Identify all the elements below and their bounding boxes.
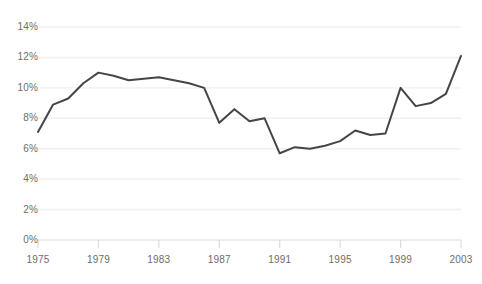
x-tick-label: 1987 bbox=[197, 255, 241, 265]
x-tick-label: 1999 bbox=[379, 255, 423, 265]
x-tick-label: 1995 bbox=[318, 255, 362, 265]
x-tick-label: 2003 bbox=[439, 255, 482, 265]
y-tick-label: 8% bbox=[4, 113, 38, 123]
line-chart: 14%12%10%8%6%4%2%0% 19751979198319871991… bbox=[0, 0, 482, 284]
x-tick-label: 1991 bbox=[258, 255, 302, 265]
y-tick-label: 2% bbox=[4, 205, 38, 215]
y-tick-label: 0% bbox=[4, 235, 38, 245]
y-tick-label: 6% bbox=[4, 144, 38, 154]
chart-plot-area bbox=[0, 0, 482, 284]
x-tick-label: 1983 bbox=[137, 255, 181, 265]
x-tick-label: 1979 bbox=[76, 255, 120, 265]
y-tick-label: 10% bbox=[4, 83, 38, 93]
x-tick-marks bbox=[38, 240, 461, 248]
y-tick-label: 4% bbox=[4, 174, 38, 184]
data-series-line bbox=[38, 56, 461, 153]
y-axis-tick-labels: 14%12%10%8%6%4%2%0% bbox=[0, 0, 38, 284]
gridlines bbox=[38, 27, 461, 210]
x-tick-label: 1975 bbox=[16, 255, 60, 265]
y-tick-label: 12% bbox=[4, 52, 38, 62]
x-axis-tick-labels: 19751979198319871991199519992003 bbox=[0, 255, 482, 273]
y-tick-label: 14% bbox=[4, 22, 38, 32]
